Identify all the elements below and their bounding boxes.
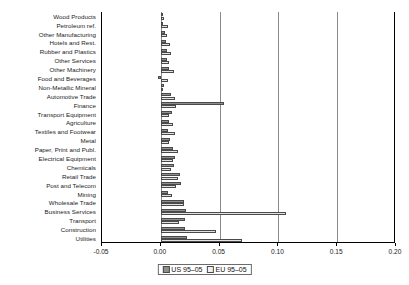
bar-eu (161, 212, 286, 215)
y-axis-label-non-metallic-mineral: Non-Metallic Mineral (39, 84, 96, 91)
x-axis-tick-label: 0.00 (153, 248, 166, 255)
bar-row (102, 234, 394, 243)
x-tick (336, 243, 337, 246)
y-axis-label-petroleum-ref: Petroleum ref. (56, 22, 96, 29)
bar-row (102, 74, 394, 83)
bar-row (102, 181, 394, 190)
y-axis-label-chemicals: Chemicals (67, 164, 96, 171)
y-axis-label-utilities: Utilities (76, 235, 96, 242)
y-axis-label-other-machinery: Other Machinery (50, 66, 97, 73)
bar-row (102, 110, 394, 119)
y-axis-label-hotels-and-rest: Hotels and Rest. (49, 39, 96, 46)
bar-row (102, 154, 394, 163)
bar-eu (161, 25, 168, 28)
y-axis-label-transport: Transport (69, 217, 96, 224)
x-tick (160, 243, 161, 246)
y-axis-label-transport-equipment: Transport Equipment (38, 111, 97, 118)
bar-eu (161, 43, 171, 46)
bar-eu (161, 70, 174, 73)
plot-area (101, 12, 395, 243)
bar-eu (161, 114, 169, 117)
x-axis-tick-label: 0.20 (389, 248, 402, 255)
bar-eu (161, 239, 242, 242)
bar-row (102, 199, 394, 208)
bar-eu (161, 203, 184, 206)
bar-eu (161, 34, 167, 37)
y-axis-label-metal: Metal (81, 137, 96, 144)
y-axis-label-other-manufacturing: Other Manufacturing (39, 31, 96, 38)
y-axis-label-other-services: Other Services (54, 57, 96, 64)
y-axis-label-business-services: Business Services (45, 208, 96, 215)
y-axis-label-textiles-and-footwear: Textiles and Footwear (35, 128, 96, 135)
y-axis-label-mining: Mining (77, 191, 96, 198)
bar-eu (161, 221, 179, 224)
bar-eu (161, 159, 173, 162)
bar-row (102, 30, 394, 39)
bar-eu (161, 88, 163, 91)
bar-row (102, 190, 394, 199)
legend-entry: EU 95–05 (207, 266, 247, 273)
y-axis-label-automotive-trade: Automotive Trade (47, 93, 96, 100)
bar-row (102, 65, 394, 74)
bar-row (102, 128, 394, 137)
legend-label: EU 95–05 (216, 266, 247, 273)
bar-eu (161, 150, 178, 153)
y-axis-label-agriculture: Agriculture (66, 119, 96, 126)
bar-eu (161, 185, 176, 188)
bar-row (102, 101, 394, 110)
y-axis-label-food-and-beverages: Food and Beverages (38, 75, 96, 82)
bar-eu (161, 177, 178, 180)
bar-row (102, 172, 394, 181)
y-axis-label-construction: Construction (61, 226, 96, 233)
bar-row (102, 83, 394, 92)
x-axis-tick-label: 0.15 (330, 248, 343, 255)
bar-row (102, 119, 394, 128)
legend-label: US 95–05 (171, 266, 202, 273)
y-axis-label-wholesale-trade: Wholesale Trade (49, 199, 96, 206)
bar-row (102, 225, 394, 234)
bar-row (102, 163, 394, 172)
x-tick (395, 243, 396, 246)
bar-eu (161, 194, 172, 197)
y-axis-label-paper-print-and-publ: Paper, Print and Publ. (35, 146, 96, 153)
bar-row (102, 207, 394, 216)
x-tick (277, 243, 278, 246)
bar-eu (161, 230, 216, 233)
bar-row (102, 56, 394, 65)
bar-eu (161, 141, 169, 144)
chart-legend: US 95–05EU 95–05 (157, 264, 251, 275)
bar-row (102, 136, 394, 145)
x-tick (219, 243, 220, 246)
bar-row (102, 12, 394, 21)
bar-eu (161, 79, 168, 82)
bar-row (102, 48, 394, 57)
bar-eu (161, 97, 176, 100)
bar-row (102, 145, 394, 154)
bar-eu (161, 123, 173, 126)
x-axis-tick-label: 0.05 (212, 248, 225, 255)
y-axis-label-finance: Finance (74, 102, 96, 109)
bar-eu (161, 52, 172, 55)
legend-swatch-us-icon (162, 266, 169, 273)
bar-row (102, 21, 394, 30)
y-axis-labels: Wood ProductsPetroleum ref.Other Manufac… (0, 12, 99, 243)
bar-eu (161, 17, 164, 20)
bar-eu (161, 132, 175, 135)
x-axis-tick-label: 0.10 (271, 248, 284, 255)
bar-rows (102, 12, 394, 242)
legend-entry: US 95–05 (162, 266, 202, 273)
bar-row (102, 39, 394, 48)
y-axis-label-wood-products: Wood Products (53, 13, 96, 20)
y-axis-label-rubber-and-plastics: Rubber and Plastics (40, 48, 96, 55)
x-tick (101, 243, 102, 246)
bar-eu (161, 105, 176, 108)
bar-row (102, 92, 394, 101)
legend-swatch-eu-icon (207, 266, 214, 273)
x-axis-tick-label: -0.05 (93, 248, 108, 255)
bar-eu (161, 168, 172, 171)
y-axis-label-post-and-telecom: Post and Telecom (46, 182, 96, 189)
y-axis-label-retail-trade: Retail Trade (62, 173, 96, 180)
bar-eu (161, 61, 169, 64)
y-axis-label-electrical-equipment: Electrical Equipment (39, 155, 96, 162)
bar-chart: Wood ProductsPetroleum ref.Other Manufac… (0, 0, 409, 285)
